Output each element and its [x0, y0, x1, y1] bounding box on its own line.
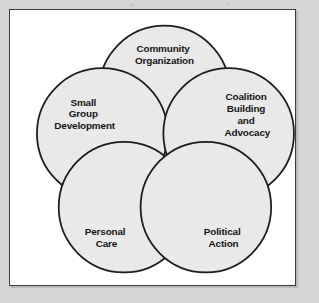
venn-diagram: Community Organization Small Group Devel…: [10, 10, 295, 285]
venn-label-political-action: Political Action: [204, 226, 243, 249]
venn-circle-political-action[interactable]: [141, 142, 272, 273]
diagram-frame: Community Organization Small Group Devel…: [9, 9, 296, 286]
scan-speck: [226, 3, 229, 6]
figure-root: Community Organization Small Group Devel…: [0, 0, 319, 303]
venn-canvas: Community Organization Small Group Devel…: [10, 10, 295, 285]
venn-label-community-organization: Community Organization: [135, 43, 194, 66]
scan-speck: [131, 3, 134, 7]
